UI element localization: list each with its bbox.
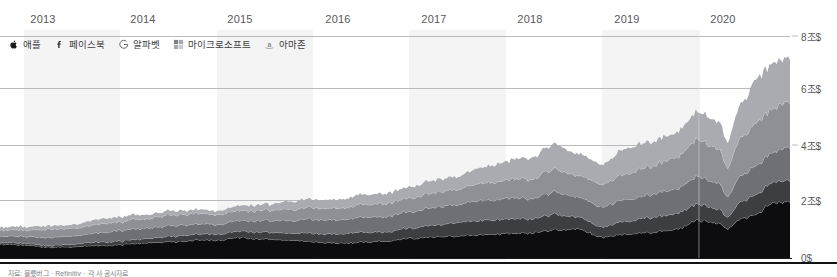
y-tick-label-3: 2조$ [801, 193, 821, 208]
bottom-rule [0, 262, 837, 264]
x-tick-label-2019: 2019 [614, 13, 639, 25]
legend-label-2: 페이스북 [69, 40, 105, 50]
y-tick-mark-0 [792, 36, 798, 37]
x-tick-label-2018: 2018 [517, 13, 542, 25]
legend-item-1[interactable]: 애플 [8, 39, 41, 50]
x-tick-label-2016: 2016 [325, 13, 350, 25]
legend-item-2[interactable]: 페이스북 [54, 39, 105, 50]
legend-label-1: 애플 [23, 40, 41, 50]
legend-item-4[interactable]: 마이크로소프트 [173, 39, 251, 50]
plot-area [0, 30, 790, 260]
legend-label-5: 아마존 [279, 40, 306, 50]
amazon-icon: a [264, 39, 275, 50]
legend-item-5[interactable]: a아마존 [264, 39, 306, 50]
x-tick-label-2015: 2015 [227, 13, 252, 25]
legend-label-4: 마이크로소프트 [188, 40, 251, 50]
microsoft-icon [173, 39, 184, 50]
year-divider-2020 [698, 30, 699, 260]
legend-item-3[interactable]: 알파벳 [118, 39, 160, 50]
y-tick-label-1: 6조$ [801, 81, 821, 96]
facebook-icon [54, 39, 65, 50]
axis-baseline [0, 258, 792, 259]
legend-label-3: 알파벳 [133, 40, 160, 50]
apple-icon [8, 39, 19, 50]
source-note: 자료: 블룼버그 · Refinitiv · 각 사 공시자료 [8, 268, 128, 277]
x-tick-label-2014: 2014 [130, 13, 155, 25]
x-tick-label-2017: 2017 [421, 13, 446, 25]
y-tick-label-2: 4조$ [801, 138, 821, 153]
x-tick-label-2013: 2013 [30, 13, 55, 25]
y-tick-label-0: 8조$ [801, 29, 821, 44]
y-axis: 8조$6조$4조$2조$0$ [792, 0, 837, 277]
svg-text:a: a [268, 41, 272, 48]
chart-root: 20132014201520162017201820192020 애플페이스북알… [0, 0, 837, 277]
google-icon [118, 39, 129, 50]
stacked-area-series [0, 30, 790, 260]
chart-legend: 애플페이스북알파벳마이크로소프트a아마존 [8, 36, 306, 53]
x-axis-years: 20132014201520162017201820192020 [0, 0, 837, 30]
x-tick-label-2020: 2020 [710, 13, 735, 25]
y-tick-mark-2 [792, 145, 798, 146]
